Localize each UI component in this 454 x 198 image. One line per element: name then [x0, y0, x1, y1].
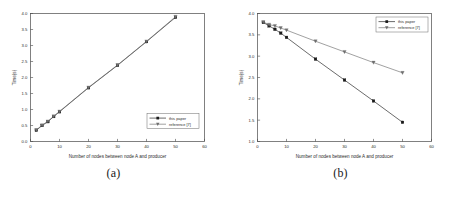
x-axis-title: Number of nodes between node A and produ… [296, 154, 394, 159]
x-tick-label: 50 [173, 144, 178, 149]
x-tick-label: 40 [371, 144, 376, 149]
y-axis-title: Time(s) [12, 69, 17, 85]
legend-label: reference [7] [169, 122, 191, 127]
legend-label: this paper [169, 116, 187, 121]
x-tick-label: 20 [86, 144, 91, 149]
x-tick-label: 10 [284, 144, 289, 149]
x-tick-label: 30 [115, 144, 120, 149]
panel-caption-b: (b) [227, 166, 454, 181]
data-point-marker [401, 71, 404, 74]
y-tick-label: 2.0 [248, 96, 254, 101]
x-tick-label: 10 [57, 144, 62, 149]
y-tick-label: 3.0 [21, 43, 27, 48]
x-tick-label: 0 [29, 144, 32, 149]
panel-caption-a: (a) [0, 166, 227, 181]
legend-marker [156, 117, 159, 120]
y-tick-label: 0.0 [21, 139, 27, 144]
series-line-reference [36, 17, 175, 130]
legend-label: reference [7] [398, 25, 420, 30]
plot-frame [258, 14, 432, 142]
y-tick-label: 0.5 [21, 123, 27, 128]
x-tick-label: 0 [256, 144, 259, 149]
data-point-marker [314, 58, 317, 61]
y-axis-title: Time(s) [239, 69, 244, 85]
y-tick-label: 1.0 [248, 139, 254, 144]
series-line-this-paper [263, 22, 402, 122]
y-tick-label: 1.5 [248, 118, 254, 123]
y-tick-label: 4.0 [21, 11, 27, 16]
y-tick-label: 1.0 [21, 107, 27, 112]
chart-panel-b: 01020304050601.01.52.02.53.03.54.0Number… [227, 0, 454, 198]
x-tick-label: 30 [342, 144, 347, 149]
x-tick-label: 60 [202, 144, 207, 149]
y-tick-label: 4.0 [248, 11, 254, 16]
y-tick-label: 2.0 [21, 75, 27, 80]
data-point-marker [274, 28, 277, 31]
x-axis-title: Number of nodes between node A and produ… [69, 154, 167, 159]
data-point-marker [372, 100, 375, 103]
y-tick-label: 3.5 [21, 27, 27, 32]
y-tick-label: 2.5 [21, 59, 27, 64]
data-point-marker [285, 36, 288, 39]
data-point-marker [343, 79, 346, 82]
y-tick-label: 2.5 [248, 75, 254, 80]
x-tick-label: 50 [400, 144, 405, 149]
y-tick-label: 1.5 [21, 91, 27, 96]
y-tick-label: 3.5 [248, 32, 254, 37]
x-tick-label: 40 [144, 144, 149, 149]
x-tick-label: 60 [429, 144, 434, 149]
data-point-marker [279, 32, 282, 35]
legend-marker [385, 20, 388, 23]
figure-row: 01020304050600.00.51.01.52.02.53.03.54.0… [0, 0, 454, 198]
y-tick-label: 3.0 [248, 54, 254, 59]
chart-panel-a: 01020304050600.00.51.01.52.02.53.03.54.0… [0, 0, 227, 198]
legend-label: this paper [398, 19, 416, 24]
data-point-marker [401, 121, 404, 124]
x-tick-label: 20 [313, 144, 318, 149]
